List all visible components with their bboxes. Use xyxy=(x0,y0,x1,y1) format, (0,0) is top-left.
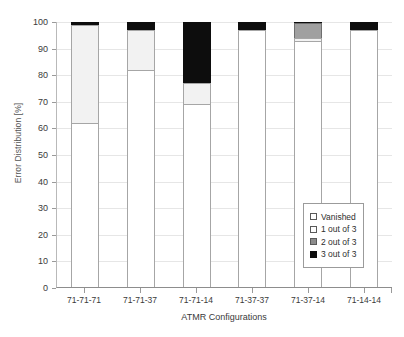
bar-slot xyxy=(169,22,225,287)
x-tick-label: 71-37-37 xyxy=(224,295,280,305)
x-tick-mark xyxy=(252,288,253,293)
x-tick-label: 71-71-71 xyxy=(56,295,112,305)
y-tick-mark xyxy=(52,235,56,236)
bar-segment xyxy=(127,70,155,287)
stacked-bar[interactable] xyxy=(127,22,155,287)
bar-segment xyxy=(238,30,266,287)
bar-segment xyxy=(183,83,211,104)
legend-swatch-icon xyxy=(310,213,317,220)
x-axis-tick-labels: 71-71-7171-71-3771-71-1471-37-3771-37-14… xyxy=(56,295,392,305)
chart-figure: Error Distribution [%] 01020304050607080… xyxy=(0,0,404,337)
stacked-bar[interactable] xyxy=(183,22,211,287)
x-tick-label: 71-37-14 xyxy=(280,295,336,305)
x-tick-mark xyxy=(364,288,365,293)
y-tick-label: 30 xyxy=(0,203,48,213)
bar-segment xyxy=(294,23,322,38)
chart-legend: Vanished1 out of 32 out of 33 out of 3 xyxy=(303,203,364,268)
legend-swatch-icon xyxy=(310,226,317,233)
legend-item[interactable]: Vanished xyxy=(310,212,356,222)
legend-item[interactable]: 2 out of 3 xyxy=(310,237,356,247)
y-tick-mark xyxy=(52,128,56,129)
bar-segment xyxy=(71,25,99,123)
y-tick-label: 60 xyxy=(0,123,48,133)
y-tick-mark xyxy=(52,49,56,50)
bar-segment xyxy=(183,104,211,287)
x-tick-mark xyxy=(84,288,85,293)
x-tick-label: 71-71-37 xyxy=(112,295,168,305)
legend-item[interactable]: 3 out of 3 xyxy=(310,249,356,259)
x-axis-end-tick xyxy=(391,288,392,293)
legend-label: 3 out of 3 xyxy=(321,249,356,259)
y-tick-label: 0 xyxy=(0,283,48,293)
legend-label: 2 out of 3 xyxy=(321,237,356,247)
bar-slot xyxy=(224,22,280,287)
y-tick-label: 10 xyxy=(0,256,48,266)
stacked-bar[interactable] xyxy=(238,22,266,287)
y-tick-mark xyxy=(52,261,56,262)
bar-segment xyxy=(127,30,155,70)
legend-item[interactable]: 1 out of 3 xyxy=(310,224,356,234)
y-axis-title: Error Distribution [%] xyxy=(13,63,23,223)
y-tick-label: 80 xyxy=(0,70,48,80)
y-tick-label: 90 xyxy=(0,44,48,54)
y-tick-mark xyxy=(52,208,56,209)
bar-slot xyxy=(57,22,113,287)
bar-segment xyxy=(183,22,211,83)
x-tick-mark xyxy=(140,288,141,293)
y-tick-label: 70 xyxy=(0,97,48,107)
y-tick-label: 40 xyxy=(0,177,48,187)
legend-label: Vanished xyxy=(321,212,356,222)
legend-swatch-icon xyxy=(310,251,317,258)
y-tick-mark xyxy=(52,182,56,183)
bar-slot xyxy=(113,22,169,287)
stacked-bar[interactable] xyxy=(71,22,99,287)
x-axis-title: ATMR Configurations xyxy=(56,312,392,322)
x-tick-mark xyxy=(308,288,309,293)
legend-label: 1 out of 3 xyxy=(321,224,356,234)
y-tick-mark xyxy=(52,155,56,156)
legend-swatch-icon xyxy=(310,238,317,245)
y-tick-mark xyxy=(52,22,56,23)
y-tick-mark xyxy=(52,75,56,76)
y-tick-mark xyxy=(52,102,56,103)
bar-segment xyxy=(238,22,266,30)
bar-segment xyxy=(127,22,155,30)
bar-segment xyxy=(71,123,99,287)
y-tick-label: 50 xyxy=(0,150,48,160)
x-tick-mark xyxy=(196,288,197,293)
x-tick-label: 71-71-14 xyxy=(168,295,224,305)
x-tick-label: 71-14-14 xyxy=(336,295,392,305)
y-tick-label: 100 xyxy=(0,17,48,27)
bar-segment xyxy=(350,22,378,30)
y-tick-label: 20 xyxy=(0,230,48,240)
